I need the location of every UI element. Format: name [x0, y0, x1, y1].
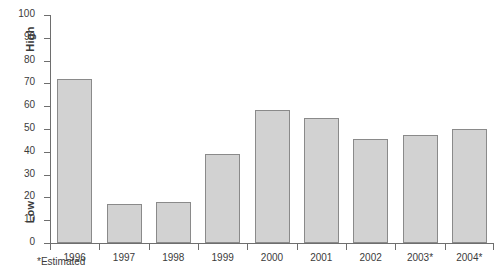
y-axis-tick-label: 60: [24, 99, 35, 110]
x-axis-label: 2002: [346, 252, 395, 263]
x-axis-tick: [297, 244, 298, 250]
bar: [353, 139, 388, 243]
bar: [107, 204, 142, 243]
bars-layer: [50, 15, 494, 243]
y-axis-tick-label: 80: [24, 54, 35, 65]
x-axis-labels: 19961997199819992000200120022003*2004*: [50, 252, 494, 266]
x-axis-tick: [50, 244, 51, 250]
bar: [403, 135, 438, 243]
x-axis-label: 1998: [149, 252, 198, 263]
bar: [255, 110, 290, 243]
x-axis-label: 2003*: [395, 252, 444, 263]
x-axis-tick: [198, 244, 199, 250]
y-axis-tick-label: 40: [24, 145, 35, 156]
bar: [205, 154, 240, 243]
x-axis-tick: [99, 244, 100, 250]
y-axis-tick-label: 0: [29, 236, 35, 247]
footnote-estimated: *Estimated: [37, 256, 85, 267]
x-axis-label: 1997: [99, 252, 148, 263]
y-axis-tick-label: 30: [24, 168, 35, 179]
bar: [452, 129, 487, 243]
x-axis-tick: [445, 244, 446, 250]
bar: [156, 202, 191, 243]
y-axis-tick-label: 10: [24, 213, 35, 224]
x-axis-label: 2004*: [445, 252, 494, 263]
x-axis-tick: [149, 244, 150, 250]
y-axis-tick-label: 100: [18, 8, 35, 19]
bar: [57, 79, 92, 243]
y-axis-tick-label: 70: [24, 76, 35, 87]
x-axis-ticks: [50, 244, 494, 251]
bar: [304, 118, 339, 243]
x-axis-tick: [493, 244, 494, 250]
x-axis-label: 1999: [198, 252, 247, 263]
x-axis-label: 2000: [247, 252, 296, 263]
y-axis-tick-label: 20: [24, 190, 35, 201]
x-axis-tick: [247, 244, 248, 250]
y-axis-tick-label: 90: [24, 31, 35, 42]
y-axis-tick-label: 50: [24, 122, 35, 133]
x-axis-label: 2001: [297, 252, 346, 263]
x-axis-tick: [395, 244, 396, 250]
plot-area: 0102030405060708090100 19961997199819992…: [50, 15, 494, 243]
x-axis-tick: [346, 244, 347, 250]
bar-chart-figure: High Low 0102030405060708090100 19961997…: [0, 0, 499, 275]
